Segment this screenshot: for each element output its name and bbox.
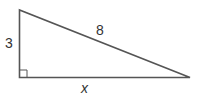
hypotenuse-label: 8	[96, 22, 104, 38]
right-angle-marker	[20, 70, 28, 78]
horizontal-leg-label: x	[80, 80, 89, 96]
right-triangle	[20, 10, 191, 78]
triangle-diagram: 3 8 x	[0, 0, 203, 105]
vertical-leg-label: 3	[5, 35, 13, 51]
